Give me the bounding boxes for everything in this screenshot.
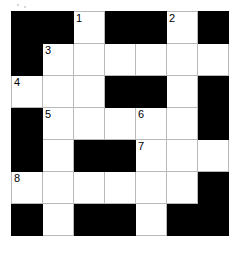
crossword-row: 12 [12, 12, 229, 44]
crossword-open-cell[interactable]: 5 [43, 108, 74, 140]
crossword-block-cell [136, 76, 167, 108]
crossword-block-cell [74, 204, 105, 236]
crossword-row: 8 [12, 172, 229, 204]
crossword-open-cell[interactable] [43, 204, 74, 236]
crossword-open-cell[interactable] [105, 172, 136, 204]
crossword-open-cell[interactable] [198, 140, 229, 172]
crossword-block-cell [167, 204, 198, 236]
crossword-block-cell [105, 140, 136, 172]
crossword-open-cell[interactable] [74, 108, 105, 140]
crossword-puzzle: 12345678 [0, 0, 242, 255]
crossword-block-cell [136, 12, 167, 44]
crossword-block-cell [198, 204, 229, 236]
crossword-open-cell[interactable] [167, 172, 198, 204]
crossword-block-cell [198, 108, 229, 140]
crossword-row: 7 [12, 140, 229, 172]
crossword-open-cell[interactable] [167, 108, 198, 140]
crossword-open-cell[interactable] [167, 140, 198, 172]
crossword-open-cell[interactable] [43, 76, 74, 108]
crossword-block-cell [198, 172, 229, 204]
crossword-row: 3 [12, 44, 229, 76]
crossword-open-cell[interactable]: 2 [167, 12, 198, 44]
crossword-block-cell [12, 12, 43, 44]
crossword-block-cell [198, 76, 229, 108]
crossword-block-cell [12, 44, 43, 76]
crossword-open-cell[interactable]: 1 [74, 12, 105, 44]
crossword-row: 56 [12, 108, 229, 140]
crossword-block-cell [12, 204, 43, 236]
scan-speck [17, 4, 19, 6]
cell-number: 6 [138, 108, 144, 120]
crossword-open-cell[interactable] [43, 140, 74, 172]
crossword-open-cell[interactable] [43, 172, 74, 204]
crossword-open-cell[interactable] [136, 44, 167, 76]
crossword-open-cell[interactable]: 6 [136, 108, 167, 140]
cell-number: 7 [138, 140, 144, 152]
crossword-block-cell [12, 108, 43, 140]
crossword-grid-body: 12345678 [12, 12, 229, 236]
cell-number: 3 [45, 44, 51, 56]
scan-speck [24, 6, 26, 8]
crossword-row [12, 204, 229, 236]
cell-number: 1 [76, 12, 82, 24]
crossword-block-cell [74, 140, 105, 172]
crossword-open-cell[interactable] [74, 172, 105, 204]
crossword-open-cell[interactable] [74, 76, 105, 108]
crossword-row: 4 [12, 76, 229, 108]
crossword-block-cell [43, 12, 74, 44]
crossword-open-cell[interactable]: 4 [12, 76, 43, 108]
crossword-block-cell [105, 204, 136, 236]
crossword-open-cell[interactable]: 7 [136, 140, 167, 172]
crossword-open-cell[interactable] [198, 44, 229, 76]
crossword-open-cell[interactable] [105, 108, 136, 140]
crossword-block-cell [105, 12, 136, 44]
crossword-block-cell [105, 76, 136, 108]
cell-number: 8 [14, 172, 20, 184]
cell-number: 2 [169, 12, 175, 24]
crossword-open-cell[interactable]: 8 [12, 172, 43, 204]
crossword-open-cell[interactable] [136, 172, 167, 204]
crossword-block-cell [198, 12, 229, 44]
cell-number: 5 [45, 108, 51, 120]
crossword-open-cell[interactable] [136, 204, 167, 236]
crossword-block-cell [12, 140, 43, 172]
crossword-open-cell[interactable] [167, 44, 198, 76]
crossword-open-cell[interactable] [74, 44, 105, 76]
crossword-open-cell[interactable] [105, 44, 136, 76]
crossword-open-cell[interactable] [167, 76, 198, 108]
crossword-open-cell[interactable]: 3 [43, 44, 74, 76]
crossword-grid[interactable]: 12345678 [11, 11, 229, 236]
cell-number: 4 [14, 76, 20, 88]
